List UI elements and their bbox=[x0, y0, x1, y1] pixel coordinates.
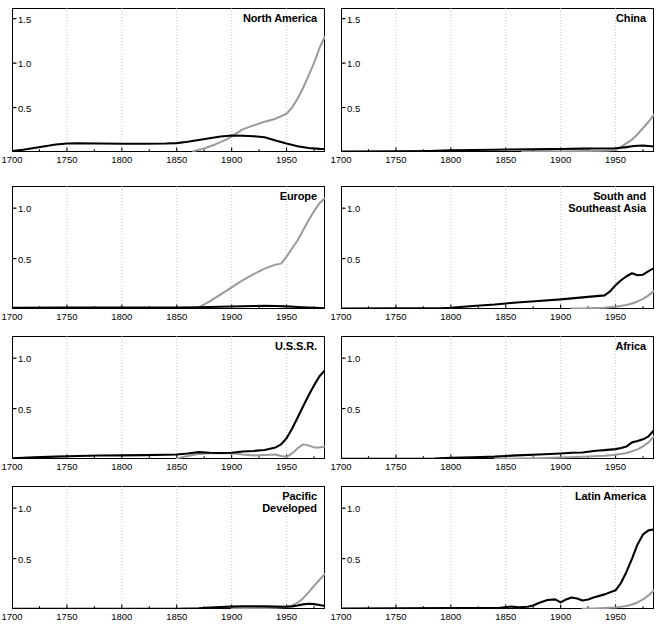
x-tick-label: 1900 bbox=[550, 612, 571, 622]
x-tick-label: 1850 bbox=[495, 462, 516, 472]
y-tick-label: 0.5 bbox=[347, 404, 360, 413]
y-tick-label: 1.0 bbox=[347, 354, 360, 363]
gridlines-china bbox=[396, 8, 616, 152]
x-tick-label: 1700 bbox=[1, 155, 22, 165]
x-tick-label: 1850 bbox=[166, 612, 187, 622]
series-line-black bbox=[341, 268, 654, 308]
gridlines-europe bbox=[67, 186, 287, 309]
x-tick-label: 1700 bbox=[1, 612, 22, 622]
x-tick-label: 1750 bbox=[385, 462, 406, 472]
x-tick-label: 1750 bbox=[56, 612, 77, 622]
plot-canvas-europe bbox=[12, 186, 325, 309]
plot-canvas-south-and-southeast-asia bbox=[341, 186, 654, 309]
x-tick-label: 1950 bbox=[276, 312, 297, 322]
y-tick-label: 1.5 bbox=[18, 14, 31, 23]
x-tick-label: 1800 bbox=[111, 155, 132, 165]
x-tick-label: 1850 bbox=[166, 462, 187, 472]
y-tick-label: 1.0 bbox=[18, 204, 31, 213]
x-tick-label-row: 170017501800185019001950 bbox=[341, 155, 654, 167]
y-ticks-north-america bbox=[12, 19, 314, 152]
x-tick-label-row: 170017501800185019001950 bbox=[341, 612, 654, 624]
gridlines-africa bbox=[396, 336, 616, 459]
x-tick-label: 1950 bbox=[276, 462, 297, 472]
x-tick-label: 1750 bbox=[56, 462, 77, 472]
x-tick-label: 1700 bbox=[330, 312, 351, 322]
x-tick-label: 1700 bbox=[330, 155, 351, 165]
y-ticks-pacific-developed bbox=[12, 508, 314, 609]
series-line-black bbox=[12, 306, 325, 308]
panel-latin-america: Latin America0.51.0170017501800185019001… bbox=[341, 486, 654, 609]
x-tick-label-row: 170017501800185019001950 bbox=[341, 462, 654, 474]
x-tick-label: 1850 bbox=[495, 155, 516, 165]
x-tick-label: 1800 bbox=[111, 462, 132, 472]
x-tick-label: 1800 bbox=[111, 612, 132, 622]
y-tick-label: 1.0 bbox=[347, 59, 360, 68]
series-line-black bbox=[12, 136, 325, 152]
plot-canvas-pacific-developed bbox=[12, 486, 325, 609]
y-tick-label: 1.0 bbox=[18, 59, 31, 68]
plot-canvas-latin-america bbox=[341, 486, 654, 609]
x-tick-label: 1950 bbox=[605, 155, 626, 165]
y-ticks-latin-america bbox=[341, 508, 643, 609]
x-tick-label: 1950 bbox=[276, 612, 297, 622]
series-line-gray bbox=[193, 36, 325, 151]
x-tick-label: 1750 bbox=[56, 155, 77, 165]
x-tick-label: 1800 bbox=[440, 462, 461, 472]
y-ticks-europe bbox=[12, 208, 314, 309]
x-tick-label: 1800 bbox=[440, 312, 461, 322]
x-tick-label: 1850 bbox=[495, 312, 516, 322]
x-tick-label: 1950 bbox=[605, 462, 626, 472]
y-tick-label: 1.0 bbox=[18, 354, 31, 363]
plot-canvas-ussr bbox=[12, 336, 325, 459]
x-tick-label: 1950 bbox=[276, 155, 297, 165]
x-tick-label: 1700 bbox=[330, 612, 351, 622]
y-ticks-africa bbox=[341, 358, 643, 459]
x-tick-label: 1900 bbox=[550, 155, 571, 165]
x-tick-label: 1800 bbox=[440, 612, 461, 622]
x-tick-label: 1850 bbox=[166, 155, 187, 165]
x-tick-label: 1950 bbox=[605, 312, 626, 322]
panel-europe: Europe0.51.0170017501800185019001950 bbox=[12, 186, 325, 309]
y-tick-label: 1.0 bbox=[347, 504, 360, 513]
x-tick-label: 1800 bbox=[440, 155, 461, 165]
x-tick-label: 1900 bbox=[550, 312, 571, 322]
y-tick-label: 0.5 bbox=[18, 554, 31, 563]
x-tick-label-row: 170017501800185019001950 bbox=[12, 312, 325, 324]
x-tick-label-row: 170017501800185019001950 bbox=[12, 612, 325, 624]
x-tick-label: 1750 bbox=[385, 155, 406, 165]
panel-pacific-developed: Pacific Developed0.51.017001750180018501… bbox=[12, 486, 325, 609]
x-tick-label: 1750 bbox=[385, 312, 406, 322]
x-tick-label: 1900 bbox=[221, 612, 242, 622]
x-tick-label: 1750 bbox=[385, 612, 406, 622]
y-tick-label: 1.0 bbox=[347, 204, 360, 213]
gridlines-pacific-developed bbox=[67, 486, 287, 609]
x-tick-label: 1850 bbox=[166, 312, 187, 322]
y-ticks-south-and-southeast-asia bbox=[341, 208, 643, 309]
y-tick-label: 0.5 bbox=[347, 103, 360, 112]
y-tick-label: 0.5 bbox=[18, 103, 31, 112]
y-tick-label: 0.5 bbox=[347, 254, 360, 263]
x-tick-label: 1900 bbox=[550, 462, 571, 472]
x-tick-label: 1950 bbox=[605, 612, 626, 622]
y-tick-label: 0.5 bbox=[18, 254, 31, 263]
panel-africa: Africa0.51.0170017501800185019001950 bbox=[341, 336, 654, 459]
gridlines-north-america bbox=[67, 8, 287, 152]
plot-canvas-africa bbox=[341, 336, 654, 459]
y-tick-label: 0.5 bbox=[18, 404, 31, 413]
y-ticks-china bbox=[341, 19, 643, 152]
series-line-gray bbox=[583, 590, 654, 608]
series-line-black bbox=[12, 370, 325, 458]
gridlines-latin-america bbox=[396, 486, 616, 609]
series-line-black bbox=[341, 430, 654, 458]
x-tick-label: 1700 bbox=[1, 312, 22, 322]
panel-china: China0.51.01.5170017501800185019001950 bbox=[341, 8, 654, 152]
series-line-gray bbox=[572, 291, 654, 309]
panel-north-america: North America0.51.01.5170017501800185019… bbox=[12, 8, 325, 152]
y-tick-label: 0.5 bbox=[347, 554, 360, 563]
x-tick-label: 1750 bbox=[56, 312, 77, 322]
series-line-gray bbox=[199, 198, 325, 307]
plot-canvas-north-america bbox=[12, 8, 325, 152]
x-tick-label-row: 170017501800185019001950 bbox=[12, 155, 325, 167]
gridlines-south-and-southeast-asia bbox=[396, 186, 616, 309]
